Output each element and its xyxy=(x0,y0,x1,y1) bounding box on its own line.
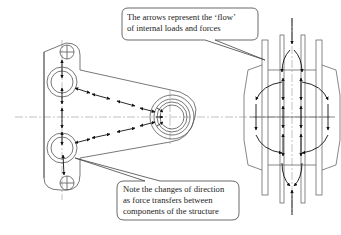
bracket-part xyxy=(44,43,196,190)
callout-bottom-line2: as force transfers between xyxy=(123,195,224,206)
callout-bottom-line1: Note the changes of direction xyxy=(123,184,224,195)
callout-bottom-line3: components of the structure xyxy=(123,206,224,217)
callout-bottom: Note the changes of direction as force t… xyxy=(123,184,224,217)
callout-top: The arrows represent the ‘flow’ of inter… xyxy=(127,12,236,34)
callout-top-line2: of internal loads and forces xyxy=(127,23,236,34)
callout-top-line1: The arrows represent the ‘flow’ xyxy=(127,12,236,23)
